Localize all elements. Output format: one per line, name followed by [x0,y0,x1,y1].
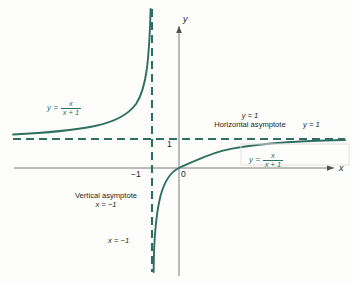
equation-inline-right: y = x x + 1 [249,152,283,170]
vertical-asymptote-annotation: Vertical asymptote x = −1 [58,192,154,209]
equation-label-left: y = x x + 1 [47,96,81,117]
equation-numerator: x [67,100,75,108]
equation-label-right: y = x x + 1 [249,148,283,169]
horizontal-asymptote-caption: Horizontal asymptote [196,121,304,130]
x-axis-label: x [339,163,344,173]
equation-denominator: x + 1 [263,161,283,169]
curve-left-branch [13,9,151,135]
equation-equals: = [256,156,261,165]
function-graph-figure: y x 1 0 −1 y = x x + 1 y = x x + 1 [0,0,353,282]
y-axis [176,26,182,276]
vertical-asymptote-equation: x = −1 [58,201,154,210]
vertical-asymptote-equation-lower: x = −1 [108,237,129,246]
x-axis [14,165,334,171]
plot-canvas [0,0,353,282]
y-axis-label: y [183,14,188,24]
equation-denominator: x + 1 [61,109,81,117]
equation-fraction: x x + 1 [263,152,283,170]
equation-lhs: y [249,156,253,165]
tick-label-y-one: 1 [167,140,172,150]
equation-lhs: y [47,104,51,113]
equation-inline-left: y = x x + 1 [47,100,81,118]
tick-label-origin: 0 [181,170,186,180]
equation-equals: = [54,104,59,113]
horizontal-asymptote-annotation: y = 1 Horizontal asymptote [196,112,304,129]
equation-fraction: x x + 1 [61,100,81,118]
tick-label-x-negative-one: −1 [131,170,141,180]
horizontal-asymptote-equation-right: y = 1 [303,121,320,130]
equation-numerator: x [269,152,277,160]
